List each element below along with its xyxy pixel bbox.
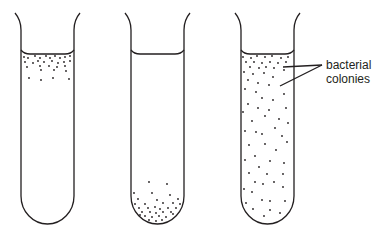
bacteria-dots-tube-1 bbox=[23, 55, 71, 81]
test-tube-3-outline bbox=[235, 13, 300, 224]
annotation-line-1: bacterial bbox=[326, 58, 371, 72]
test-tube-1-outline bbox=[15, 13, 80, 224]
annotation-label: bacterial colonies bbox=[326, 58, 371, 86]
pointer-line-2 bbox=[280, 65, 322, 86]
diagram-canvas bbox=[0, 0, 381, 238]
test-tube-2-meniscus bbox=[131, 50, 184, 54]
pointer-line-1 bbox=[283, 65, 322, 67]
annotation-line-2: colonies bbox=[326, 72, 371, 86]
test-tube-1-meniscus bbox=[21, 50, 74, 54]
bacteria-dots-tube-3 bbox=[242, 55, 289, 217]
test-tube-2-outline bbox=[125, 13, 190, 224]
test-tube-3-meniscus bbox=[241, 50, 294, 54]
bacteria-dots-tube-2 bbox=[133, 181, 181, 222]
